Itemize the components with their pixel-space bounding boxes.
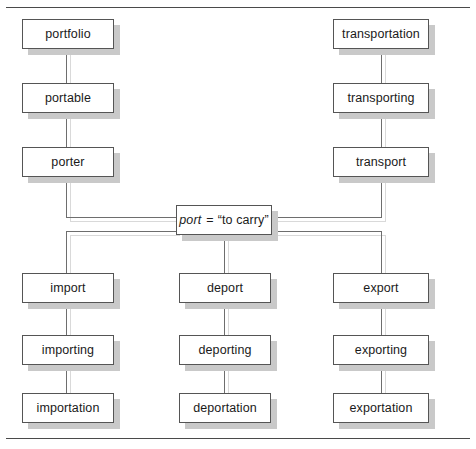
wire-transport-to-root — [268, 217, 382, 218]
node-import[interactable]: import — [22, 273, 114, 303]
node-transport[interactable]: transport — [333, 147, 429, 177]
wire-root-to-export — [268, 231, 382, 232]
node-exporting[interactable]: exporting — [333, 335, 429, 365]
node-transportation[interactable]: transportation — [333, 19, 429, 49]
node-importation[interactable]: importation — [22, 393, 114, 423]
node-root-definition[interactable]: port = “to carry” — [176, 205, 272, 235]
wire-export-down — [381, 231, 382, 274]
wire-root-to-import — [66, 231, 180, 232]
node-importing[interactable]: importing — [22, 335, 114, 365]
wire-ghost-root-to-export — [272, 235, 386, 236]
root-term: port — [179, 213, 202, 227]
node-portfolio[interactable]: portfolio — [22, 19, 114, 49]
node-export[interactable]: export — [333, 273, 429, 303]
node-deporting[interactable]: deporting — [179, 335, 271, 365]
node-exportation[interactable]: exportation — [333, 393, 429, 423]
node-deport[interactable]: deport — [179, 273, 271, 303]
frame-bottom-rule — [6, 438, 470, 439]
root-equals: = — [206, 213, 213, 227]
wire-ghost-import-down — [70, 235, 71, 278]
node-portable[interactable]: portable — [22, 83, 114, 113]
wire-ghost-root-to-deport — [228, 235, 229, 278]
wire-ghost-porter-to-root — [70, 221, 180, 222]
frame-top-rule — [6, 7, 470, 8]
wire-ghost-export-down — [385, 235, 386, 278]
word-family-diagram: portfolio portable porter transportation… — [0, 0, 476, 449]
node-deportation[interactable]: deportation — [179, 393, 271, 423]
wire-ghost-transport-to-root — [272, 221, 386, 222]
wire-porter-to-root — [66, 217, 180, 218]
wire-root-to-deport — [224, 235, 225, 278]
node-porter[interactable]: porter — [22, 147, 114, 177]
node-transporting[interactable]: transporting — [333, 83, 429, 113]
root-gloss: “to carry” — [218, 213, 269, 227]
wire-import-down — [66, 231, 67, 274]
wire-ghost-root-to-import — [70, 235, 180, 236]
